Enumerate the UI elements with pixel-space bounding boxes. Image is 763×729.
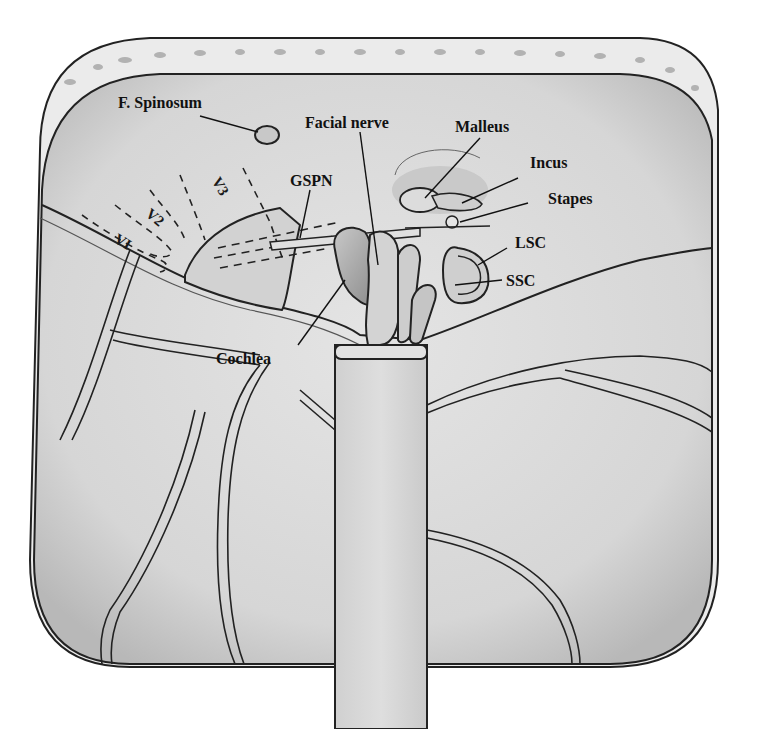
anatomy-figure: F. Spinosum Facial nerve Malleus Incus S… [0,0,763,729]
label-f-spinosum: F. Spinosum [118,94,203,112]
facial-nerve-trunk [366,232,400,345]
label-gspn: GSPN [290,172,333,189]
label-facial-nerve: Facial nerve [305,114,389,131]
label-ssc: SSC [506,272,535,289]
label-malleus: Malleus [455,118,509,135]
label-cochlea: Cochlea [216,350,271,367]
retractor-tip [335,345,427,359]
foramen-spinosum [255,126,279,144]
retractor-blade [335,345,427,729]
label-stapes: Stapes [548,190,592,208]
label-incus: Incus [530,154,567,171]
label-lsc: LSC [515,234,546,251]
